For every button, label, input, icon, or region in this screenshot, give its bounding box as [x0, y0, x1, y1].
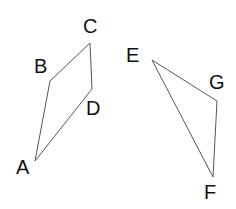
label-b: B: [34, 55, 47, 77]
label-a: A: [16, 156, 30, 178]
diagram-canvas: C B D A E G F: [0, 0, 236, 209]
label-f: F: [204, 181, 216, 203]
label-g: G: [209, 71, 225, 93]
label-d: D: [86, 97, 100, 119]
label-e: E: [126, 44, 139, 66]
label-c: C: [83, 15, 97, 37]
triangle-egf: [152, 60, 217, 177]
